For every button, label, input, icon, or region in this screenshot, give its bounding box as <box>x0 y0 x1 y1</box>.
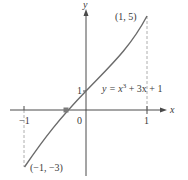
x-axis-arrow-icon <box>160 108 167 113</box>
point-label-top: (1, 5) <box>115 11 137 23</box>
tick-label-x-neg1: −1 <box>19 115 30 126</box>
y-axis-label: y <box>82 0 88 10</box>
point-label-bottom: (−1, −3) <box>30 162 63 174</box>
tick-label-x-1: 1 <box>144 115 149 126</box>
y-axis-arrow-icon <box>84 9 89 16</box>
equation-part-2: + 3x + 1 <box>126 83 162 94</box>
tick-label-x-0: 0 <box>77 115 82 126</box>
x-axis-label: x <box>169 104 175 115</box>
function-graph: y x −1 0 1 1 (1, 5) (−1, −3) y = x3 + 3x… <box>0 0 188 180</box>
root-marker <box>64 108 69 113</box>
tick-label-y-1: 1 <box>77 85 82 96</box>
equation-label: y = x3 + 3x + 1 <box>101 82 162 94</box>
equation-part-1: y = x <box>101 83 123 94</box>
